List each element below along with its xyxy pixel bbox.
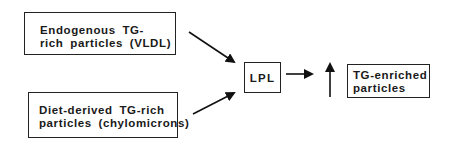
arrow-chylo-to-lpl xyxy=(193,93,234,114)
node-tg-line-2: particles xyxy=(353,82,429,95)
node-vldl-line-2: rich particles (VLDL) xyxy=(40,37,175,50)
node-lpl: LPL xyxy=(244,62,281,93)
arrow-vldl-to-lpl xyxy=(189,32,234,62)
node-chylo-line-2: particles (chylomicrons) xyxy=(39,117,177,130)
node-chylomicrons: Diet-derived TG-rich particles (chylomic… xyxy=(28,92,178,138)
node-tg-enriched: TG-enriched particles xyxy=(347,64,430,98)
node-vldl: Endogenous TG- rich particles (VLDL) xyxy=(24,12,176,55)
node-chylo-line-1: Diet-derived TG-rich xyxy=(39,104,177,117)
node-tg-line-1: TG-enriched xyxy=(353,69,429,82)
node-lpl-label: LPL xyxy=(245,72,280,85)
node-vldl-line-1: Endogenous TG- xyxy=(40,24,175,37)
